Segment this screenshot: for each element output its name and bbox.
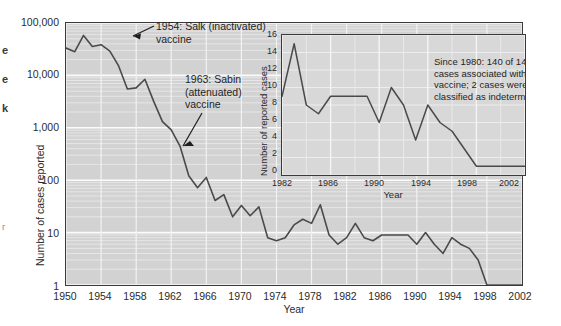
main-x-tick: 1986: [360, 290, 400, 302]
inset-y-tick: 0: [262, 165, 277, 175]
inset-x-tick: 1982: [265, 178, 299, 188]
main-x-tick: 2002: [500, 290, 540, 302]
main-x-tick: 1966: [185, 290, 225, 302]
inset-y-tick: 6: [262, 114, 277, 124]
inset-x-tick: 1986: [311, 178, 345, 188]
main-x-tick: 1974: [255, 290, 295, 302]
figure-root: e e k r Number of cases reported 100,000…: [0, 0, 561, 326]
inset-y-tick: 8: [262, 97, 277, 107]
inset-x-tick: 2002: [492, 178, 526, 188]
inset-note-text: Since 1980: 140 of 142 cases associated …: [434, 56, 526, 102]
main-x-tick: 1954: [80, 290, 120, 302]
main-y-axis-title: Number of cases reported: [34, 145, 46, 266]
main-x-tick: 1958: [115, 290, 155, 302]
main-y-tick: 1,000: [3, 121, 59, 133]
main-x-tick: 1990: [395, 290, 435, 302]
main-x-tick: 1998: [465, 290, 505, 302]
inset-y-tick: 12: [262, 63, 277, 73]
main-x-tick: 1950: [45, 290, 85, 302]
inset-x-tick: 1990: [357, 178, 391, 188]
main-y-tick: 10,000: [3, 68, 59, 80]
main-x-axis-title: Year: [264, 303, 324, 315]
inset-y-tick: 2: [262, 148, 277, 158]
annotation-sabin-label: 1963: Sabin (attenuated) vaccine: [185, 73, 242, 111]
main-x-tick: 1982: [325, 290, 365, 302]
margin-fragment: k: [2, 102, 8, 114]
main-x-tick: 1978: [290, 290, 330, 302]
inset-chart: Number of reported cases 16 14 12 10 8 6…: [248, 24, 526, 199]
inset-y-tick: 16: [262, 29, 277, 39]
main-x-tick: 1970: [220, 290, 260, 302]
main-x-tick: 1994: [430, 290, 470, 302]
inset-y-tick: 4: [262, 131, 277, 141]
main-y-tick: 10: [3, 227, 59, 239]
inset-x-tick: 1998: [450, 178, 484, 188]
inset-y-tick: 14: [262, 46, 277, 56]
inset-y-tick: 10: [262, 80, 277, 90]
margin-fragment: e: [2, 44, 8, 56]
inset-x-axis-title: Year: [373, 189, 413, 200]
main-x-tick: 1962: [150, 290, 190, 302]
main-y-tick: 100,000: [3, 16, 59, 28]
inset-plot-area: Since 1980: 140 of 142 cases associated …: [281, 34, 526, 176]
inset-x-tick: 1994: [404, 178, 438, 188]
main-y-tick: 100: [3, 174, 59, 186]
